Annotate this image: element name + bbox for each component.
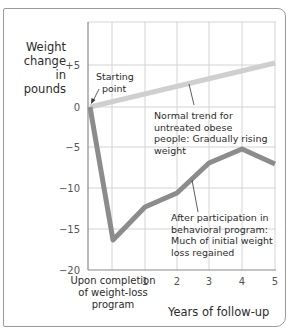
x-axis-label: Years of follow-up [168, 305, 269, 319]
y-axis-label: Weight change in pounds [10, 40, 66, 96]
ytick-0: 0 [74, 102, 80, 113]
xtick-4: 4 [239, 276, 245, 287]
normal-trend-leader [189, 84, 194, 105]
starting-point-line2: point [96, 83, 126, 94]
xtick-2: 2 [174, 276, 180, 287]
behavioral-program-annotation: After participation in behavioral progra… [171, 212, 287, 258]
ytick-m5: −5 [65, 142, 80, 153]
starting-point-line1: Starting [96, 71, 134, 82]
x-first-category-label: Upon completion of weight-loss program [70, 275, 156, 311]
behavioral-leader [192, 180, 198, 212]
ytick-m15: −15 [59, 224, 80, 235]
normal-trend-annotation: Normal trend for untreated obese people:… [154, 110, 270, 156]
xtick-3: 3 [206, 276, 212, 287]
starting-point-annotation: Starting point [96, 71, 146, 94]
xtick-5: 5 [272, 276, 278, 287]
ytick-m10: −10 [59, 183, 80, 194]
starting-point-arrowhead [91, 98, 96, 104]
ytick-p5: +5 [65, 60, 80, 71]
